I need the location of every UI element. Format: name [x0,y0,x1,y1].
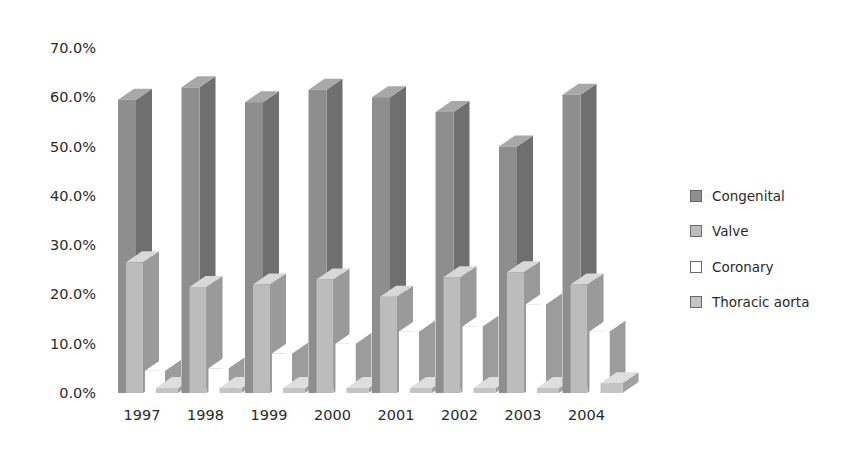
legend-item-thoracic-aorta: Thoracic aorta [690,285,809,321]
x-axis-ticks: 19971998199920002001200220032004 [124,407,605,423]
y-axis-ticks: 0.0%10.0%20.0%30.0%40.0%50.0%60.0%70.0% [50,40,96,401]
legend-swatch-coronary [690,261,702,273]
y-tick-label: 50.0% [50,139,96,155]
legend-label: Thoracic aorta [712,294,809,310]
legend-swatch-congenital [690,190,702,202]
x-tick-label: 1997 [124,407,161,423]
legend-item-coronary: Coronary [690,249,809,285]
x-tick-label: 1998 [187,407,224,423]
x-tick-label: 2001 [378,407,415,423]
legend-item-valve: Valve [690,214,809,250]
y-tick-label: 20.0% [50,286,96,302]
x-tick-label: 2003 [505,407,542,423]
legend-swatch-valve [690,225,702,237]
legend-label: Valve [712,223,749,239]
bars [118,76,639,393]
x-tick-label: 2004 [568,407,605,423]
legend-label: Coronary [712,259,774,275]
y-tick-label: 70.0% [50,40,96,56]
x-tick-label: 1999 [251,407,288,423]
y-tick-label: 60.0% [50,89,96,105]
y-tick-label: 30.0% [50,237,96,253]
bar-cluster-2004 [563,84,639,393]
y-tick-label: 0.0% [59,385,96,401]
legend-swatch-thoracic-aorta [690,296,702,308]
x-tick-label: 2002 [441,407,478,423]
legend: Congenital Valve Coronary Thoracic aorta [690,178,809,320]
y-tick-label: 40.0% [50,188,96,204]
x-tick-label: 2000 [314,407,351,423]
legend-item-congenital: Congenital [690,178,809,214]
legend-label: Congenital [712,188,785,204]
y-tick-label: 10.0% [50,336,96,352]
